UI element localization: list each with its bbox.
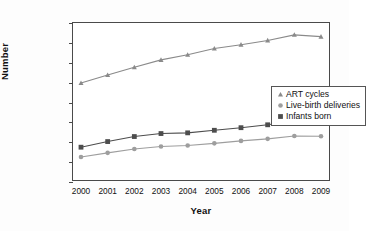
data-point (185, 130, 190, 135)
data-point (239, 125, 244, 130)
chart-legend: ART cyclesLive-birth deliveriesInfants b… (271, 86, 366, 126)
y-axis-title: Number (0, 2, 10, 122)
data-point (265, 122, 270, 127)
data-point (292, 134, 297, 139)
data-point (132, 134, 137, 139)
series-art-cycles (79, 32, 324, 85)
legend-item: Infants born (275, 111, 360, 122)
data-point (185, 143, 190, 148)
data-point (239, 139, 244, 144)
plot-area: 020,00040,00060,00080,000100,000120,0001… (72, 22, 330, 181)
x-tick-label: 2009 (301, 186, 341, 196)
data-point (105, 139, 110, 144)
data-point (79, 145, 84, 150)
x-axis-title: Year (72, 205, 330, 216)
data-point (212, 128, 217, 133)
data-point (132, 147, 137, 152)
circle-marker-icon (275, 101, 286, 110)
data-point (79, 155, 84, 160)
data-point (265, 137, 270, 142)
legend-label: Infants born (286, 111, 331, 122)
legend-item: Live-birth deliveries (275, 100, 360, 111)
series-line (81, 136, 321, 157)
data-point (212, 141, 217, 146)
triangle-marker-icon (275, 90, 286, 99)
series-live-birth-deliveries (79, 134, 324, 160)
legend-item: ART cycles (275, 89, 360, 100)
legend-label: Live-birth deliveries (286, 100, 360, 111)
data-point (159, 131, 164, 136)
y-tick-mark (69, 182, 73, 183)
data-point (319, 134, 324, 139)
legend-label: ART cycles (286, 89, 329, 100)
square-marker-icon (275, 112, 286, 121)
series-line (81, 35, 321, 83)
data-point (105, 151, 110, 156)
data-point (159, 144, 164, 149)
